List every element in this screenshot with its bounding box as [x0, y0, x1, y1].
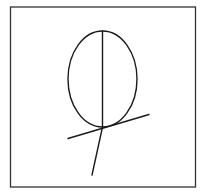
diagram-canvas [0, 0, 205, 195]
lower-slanted-line [92, 127, 103, 175]
tangent-line [68, 115, 149, 139]
